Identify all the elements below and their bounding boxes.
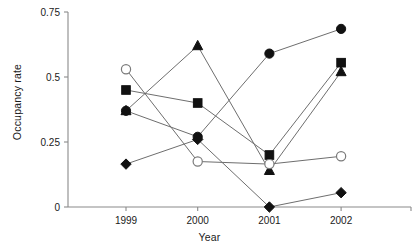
x-axis-tick-label: 1999 xyxy=(115,215,138,226)
data-point-filled-triangle-2000 xyxy=(193,40,203,49)
y-axis-tick-label: 0.25 xyxy=(41,137,61,148)
x-axis: 1999200020012002 xyxy=(68,207,411,226)
y-axis-title: Occupancy rate xyxy=(11,47,23,157)
series-lines xyxy=(126,29,341,207)
data-point-filled-diamond-2002 xyxy=(336,188,346,198)
data-point-open-circle-2000 xyxy=(193,157,202,166)
data-point-open-circle-2002 xyxy=(337,152,346,161)
data-point-filled-diamond-1999 xyxy=(121,159,131,169)
series-markers xyxy=(121,24,346,212)
data-point-filled-square-2000 xyxy=(193,99,202,108)
y-axis-tick-label: 0 xyxy=(54,202,60,213)
series-line-filled-diamond xyxy=(126,139,341,207)
data-point-filled-circle-2002 xyxy=(337,24,346,33)
data-point-open-circle-2001 xyxy=(265,160,274,169)
series-line-filled-circle xyxy=(126,29,341,137)
series-line-filled-triangle xyxy=(126,46,341,171)
data-point-filled-square-2001 xyxy=(265,151,274,160)
y-axis-tick-label: 0.5 xyxy=(46,72,60,83)
data-point-open-circle-1999 xyxy=(121,65,130,74)
plot-area: 00.250.50.75 1999200020012002 xyxy=(0,0,419,248)
y-axis-tick-label: 0.75 xyxy=(41,7,61,18)
y-axis: 00.250.50.75 xyxy=(41,7,68,213)
data-point-filled-circle-2001 xyxy=(265,49,274,58)
x-axis-tick-label: 2001 xyxy=(258,215,281,226)
x-axis-title: Year xyxy=(0,231,419,243)
data-point-filled-square-1999 xyxy=(122,86,131,95)
occupancy-rate-line-chart: 00.250.50.75 1999200020012002 Occupancy … xyxy=(0,0,419,248)
x-axis-tick-label: 2002 xyxy=(330,215,353,226)
x-axis-tick-label: 2000 xyxy=(187,215,210,226)
